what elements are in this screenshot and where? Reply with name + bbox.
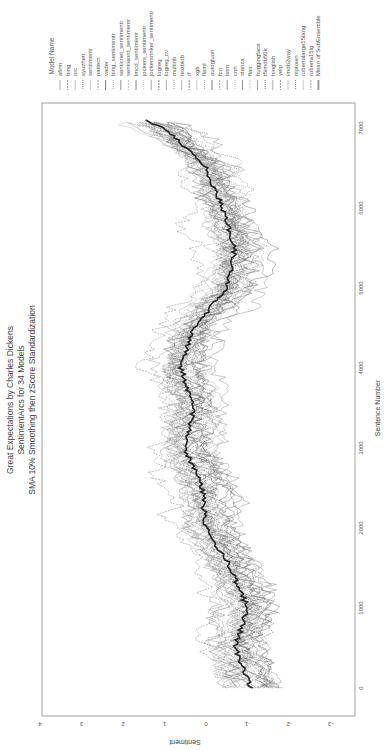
legend-label: nlptown <box>293 55 299 76</box>
title-line-3: SMA 10% Smoothing then zScore Standardiz… <box>27 305 37 495</box>
legend-label: yelp <box>277 64 283 76</box>
title-line-2: SentimentArcs for 34 Models <box>16 345 26 454</box>
x-tick-label: 7000 <box>358 121 364 135</box>
legend-label: fcn <box>217 68 223 76</box>
legend-label: stanza <box>239 58 245 76</box>
legend-label: roberta15lg <box>308 46 314 76</box>
series-line <box>136 122 233 688</box>
x-tick-label: 5000 <box>358 281 364 295</box>
x-tick-label: 6000 <box>358 201 364 215</box>
x-tick-label: 1000 <box>358 601 364 615</box>
y-tick-label: 3 <box>79 721 83 727</box>
y-tick-label: 2 <box>121 721 125 727</box>
y-tick-label: -2 <box>286 721 292 727</box>
x-axis-title: Sentence Number <box>374 379 381 436</box>
legend-label: lmcd_sentimentr <box>133 32 139 76</box>
legend-label: logreg_cv <box>163 50 169 76</box>
y-tick-label: 1 <box>162 721 166 727</box>
legend-label: hinglish <box>270 56 276 76</box>
series-lines <box>119 122 282 688</box>
legend-label: bing <box>65 65 71 76</box>
title-line-1: Great Expectations by Charles Dickens <box>5 326 15 474</box>
legend-label: sentiword_sentimentr <box>125 19 131 76</box>
legend-label: cnn <box>232 66 238 76</box>
y-tick-label: 4 <box>38 721 42 727</box>
x-axis-ticks: 01000200030004000500060007000 <box>358 121 364 690</box>
legend-label: senticnet_sentimentr <box>118 21 124 76</box>
x-tick-label: 3000 <box>358 441 364 455</box>
x-tick-label: 0 <box>358 686 364 690</box>
legend-label: jockersrinker_sentimentr <box>148 11 154 77</box>
sentiment-chart: Great Expectations by Charles Dickens Se… <box>0 0 387 751</box>
legend-label: bing_sentimentr <box>110 33 116 76</box>
legend-label: multinb <box>171 56 177 76</box>
y-axis-ticks: 43210-1-2-3 <box>38 721 334 727</box>
y-tick-label: -3 <box>327 721 333 727</box>
legend-label: huggingface <box>255 43 261 76</box>
legend-label: flaml <box>201 63 207 76</box>
legend-label: nrc <box>72 68 78 76</box>
series-line <box>140 122 261 688</box>
legend-title: Model Name <box>48 37 55 74</box>
legend-label: syuzhetr <box>80 53 86 76</box>
legend-label: imdb2way <box>285 49 291 76</box>
legend-label: robertalarge15lang <box>300 26 306 76</box>
legend-label: lstm <box>224 65 230 76</box>
legend-label: autogluon <box>209 50 215 76</box>
legend-label: rf <box>186 72 192 76</box>
legend-label: logreg <box>156 59 162 76</box>
x-tick-label: 2000 <box>358 521 364 535</box>
legend-label: sentimentr <box>87 48 93 76</box>
legend-label: t5imdb50k <box>262 47 268 76</box>
legend-label: vader <box>103 61 109 76</box>
legend-label: xgb <box>194 66 200 76</box>
legend-label: textblob <box>179 54 185 76</box>
series-line <box>137 122 233 688</box>
legend: Model Name afinnbingnrcsyuzhetrsentiment… <box>48 11 321 90</box>
legend-label: pattern <box>95 57 101 76</box>
chart-title: Great Expectations by Charles Dickens Se… <box>5 305 37 495</box>
y-axis-title: Sentiment <box>169 739 201 746</box>
legend-label: flair <box>247 66 253 76</box>
legend-label: jockers_sentimentr <box>141 26 147 77</box>
y-tick-label: -1 <box>244 721 250 727</box>
x-tick-label: 4000 <box>358 361 364 375</box>
y-tick-label: 0 <box>204 721 208 727</box>
legend-label: afinn <box>57 63 63 76</box>
legend-label: Mean of SubEnsemble <box>315 15 321 76</box>
